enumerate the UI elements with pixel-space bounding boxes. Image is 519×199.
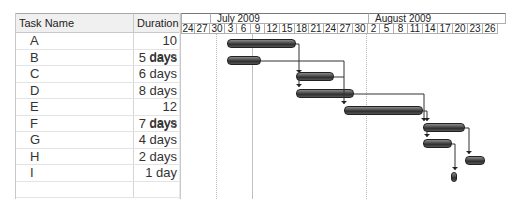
dependency-links — [0, 0, 519, 199]
arrowheads — [296, 70, 472, 170]
